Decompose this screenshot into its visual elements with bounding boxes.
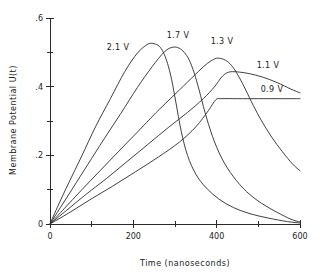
y-axis: 0.2.4.6 [35,14,54,229]
series-annotations: 2.1 V1.7 V1.3 V1.1 V0.9 V [107,31,284,94]
curve-1-3-v [50,58,300,224]
y-axis-title: Membrane Potential U(t) [9,65,18,175]
y-tick-label: .4 [35,83,43,92]
y-tick-label: .6 [35,14,43,23]
x-axis: 0200400600 [47,220,307,241]
series-label: 1.1 V [257,61,280,70]
x-axis-title: Time (nanoseconds) [139,259,230,268]
data-curves [50,43,300,224]
x-tick-label: 200 [126,232,141,241]
series-label: 2.1 V [107,43,130,52]
series-label: 1.3 V [211,37,234,46]
curve-2-1-v [50,43,300,224]
curve-1-7-v [50,47,300,224]
curve-0-9-v [50,99,300,224]
y-tick-label: 0 [38,220,43,229]
x-tick-label: 600 [292,232,307,241]
chart-figure: 0.2.4.6 0200400600 2.1 V1.7 V1.3 V1.1 V0… [0,0,320,275]
series-label: 0.9 V [261,85,284,94]
x-tick-label: 0 [47,232,52,241]
x-tick-label: 400 [209,232,224,241]
series-label: 1.7 V [167,31,190,40]
membrane-potential-line-chart: 0.2.4.6 0200400600 2.1 V1.7 V1.3 V1.1 V0… [0,0,320,275]
y-tick-label: .2 [35,151,43,160]
